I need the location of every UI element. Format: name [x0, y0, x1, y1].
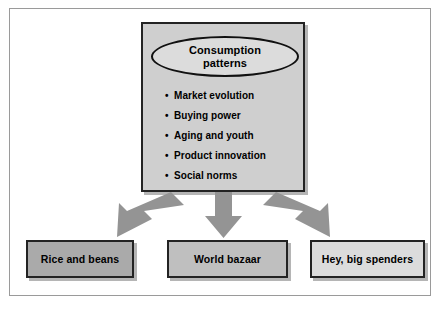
consumption-patterns-ellipse[interactable]: Consumption patterns: [151, 36, 299, 77]
outcome-box-rice-and-beans[interactable]: Rice and beans: [26, 240, 134, 278]
list-item: • Product innovation: [165, 150, 300, 161]
factors-list: • Market evolution • Buying power • Agin…: [165, 90, 300, 190]
list-item: • Buying power: [165, 110, 300, 121]
bullet-icon: •: [165, 131, 174, 141]
outcome-box-label: World bazaar: [194, 253, 261, 265]
outcome-box-hey-big-spenders[interactable]: Hey, big spenders: [310, 240, 425, 278]
outcome-box-label: Hey, big spenders: [322, 253, 413, 265]
bullet-icon: •: [165, 171, 174, 181]
outcome-box-world-bazaar[interactable]: World bazaar: [167, 240, 288, 278]
outcome-box-label: Rice and beans: [41, 253, 119, 265]
ellipse-label-line2: patterns: [189, 57, 261, 70]
list-item: • Market evolution: [165, 90, 300, 101]
list-item: • Social norms: [165, 170, 300, 181]
bullet-icon: •: [165, 91, 174, 101]
list-item-label: Buying power: [174, 110, 241, 121]
list-item: • Aging and youth: [165, 130, 300, 141]
main-concept-box[interactable]: Consumption patterns • Market evolution …: [141, 22, 305, 192]
list-item-label: Market evolution: [174, 90, 254, 101]
bullet-icon: •: [165, 111, 174, 121]
list-item-label: Product innovation: [174, 150, 266, 161]
list-item-label: Aging and youth: [174, 130, 254, 141]
diagram-canvas: Consumption patterns • Market evolution …: [0, 0, 448, 312]
list-item-label: Social norms: [174, 170, 237, 181]
ellipse-label-line1: Consumption: [189, 44, 261, 57]
bullet-icon: •: [165, 151, 174, 161]
ellipse-label: Consumption patterns: [189, 44, 261, 69]
